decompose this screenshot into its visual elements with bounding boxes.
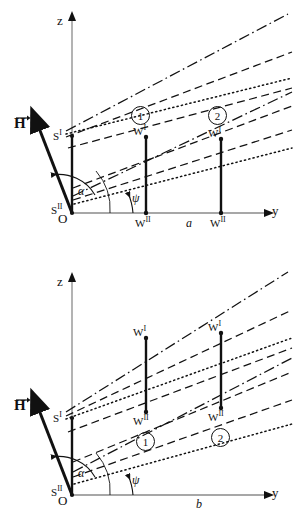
- panel-b-ray-dotted-1: [66, 338, 292, 419]
- panel-a-h-vector-label: H: [14, 116, 26, 131]
- panel-b-origin-label: O: [58, 494, 67, 507]
- panel-a-station-1-circle: 1: [131, 106, 150, 125]
- vector-arrow-overbar-icon: [16, 115, 31, 121]
- panel-b-station-2-top-label: WI: [208, 320, 221, 333]
- panel-b-z-axis-label: z: [57, 275, 63, 288]
- panel-a-station-2-top-label: WI: [208, 126, 221, 139]
- panel-a-origin-label: O: [58, 212, 67, 225]
- panel-b: [39, 272, 292, 497]
- panel-b-sprime-label: SI: [53, 411, 62, 424]
- panel-b-station-1-top-label: WI: [133, 325, 146, 338]
- panel-b-h-vector-label: H: [14, 398, 26, 413]
- panel-a-ray-family-upper: [66, 14, 292, 148]
- panel-b-ray-family-upper: [66, 272, 292, 432]
- panel-a: [39, 14, 292, 215]
- panel-a-ray-dotted-1: [66, 78, 292, 134]
- panel-a-ray-dashed-1: [66, 52, 292, 137]
- panel-b-y-axis-label: y: [272, 486, 279, 499]
- panel-a-sprime-label: SI: [53, 129, 62, 142]
- panel-b-origin-point: [70, 493, 74, 497]
- panel-a-ray-dotted-2: [74, 148, 292, 204]
- vector-arrow-overbar-icon: [16, 397, 31, 403]
- panel-a-ray-dashed-4: [73, 130, 292, 200]
- panel-b-station-1-circle: 1: [136, 432, 155, 451]
- panel-b-sprime-point: [70, 416, 74, 420]
- panel-a-z-axis-label: z: [57, 14, 63, 27]
- panel-a-station-2-circle: 2: [208, 106, 227, 125]
- panel-b-station-2-circle: 2: [211, 428, 230, 447]
- panel-a-ray-dashdot-2: [73, 92, 292, 196]
- panel-a-angle-alpha-label: α: [78, 185, 84, 197]
- panel-b-ray-dashdot-2: [73, 358, 292, 472]
- panel-b-ray-dashed-1: [66, 310, 292, 416]
- panel-a-ray-dashed-2: [68, 88, 292, 148]
- panel-a-y-axis-label: y: [272, 204, 279, 217]
- panel-b-ray-dotted-2: [74, 424, 292, 484]
- panel-a-ray-dashed-3: [73, 106, 292, 188]
- panel-b-caption: b: [196, 498, 202, 510]
- figure-root: z y H SI SII O α ψ 1 2 WI WI WII WII a z…: [0, 0, 297, 522]
- panel-b-station-2-bottom-label: WII: [208, 410, 224, 423]
- panel-a-station-1-top-label: WI: [133, 124, 146, 137]
- panel-b-angle-alpha-label: α: [78, 467, 84, 479]
- panel-a-station-2-bottom-label: WII: [210, 216, 226, 229]
- panel-a-angle-psi-label: ψ: [132, 192, 139, 204]
- panel-a-origin-point: [70, 211, 74, 215]
- panel-a-ray-dashdot-1: [66, 14, 288, 131]
- panel-a-caption: a: [186, 217, 192, 229]
- panel-a-sprime-point: [70, 134, 74, 138]
- panel-b-station-1-bottom-label: WII: [133, 414, 149, 427]
- panel-b-ray-dashed-4: [73, 400, 292, 477]
- panel-b-ray-dashed-3: [73, 372, 292, 462]
- panel-b-angle-psi-label: ψ: [132, 474, 139, 486]
- panel-a-station-1-bottom-label: WII: [135, 216, 151, 229]
